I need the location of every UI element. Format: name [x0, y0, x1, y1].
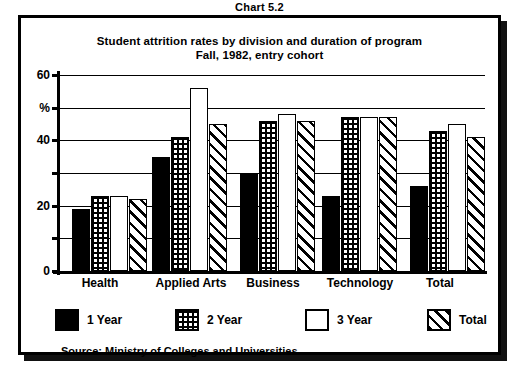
bar-groups [60, 75, 483, 271]
bar-technology-1-year [322, 196, 340, 271]
y-tick-30 [52, 172, 60, 175]
bar-applied-arts-2-year [171, 137, 189, 271]
source-note: Source: Ministry of Colleges and Univers… [61, 345, 298, 357]
chart-title-line1: Student attrition rates by division and … [21, 34, 498, 48]
x-axis-line [53, 271, 487, 274]
chart-title-line2: Fall, 1982, entry cohort [21, 48, 498, 62]
bar-total-3-year [448, 124, 466, 271]
legend-label-3-year: 3 Year [337, 313, 372, 327]
bar-total-1-year [410, 186, 428, 271]
y-tick-20 [52, 205, 60, 208]
chart-figure: Chart 5.2 Student attrition rates by div… [0, 0, 519, 372]
chart-number-caption: Chart 5.2 [0, 1, 519, 13]
bar-applied-arts-1-year [152, 157, 170, 271]
chart-title-block: Student attrition rates by division and … [21, 34, 498, 62]
white-empty-swatch [305, 309, 329, 331]
bar-group-total [410, 75, 485, 271]
y-tick-0 [52, 270, 60, 273]
bar-applied-arts-3-year [190, 88, 208, 271]
legend-label-1-year: 1 Year [87, 313, 122, 327]
legend-item-total: Total [427, 309, 487, 331]
bar-total-total [467, 137, 485, 271]
chart-legend: 1 Year2 Year3 YearTotal [55, 309, 495, 335]
bar-group-business [240, 75, 315, 271]
category-label-technology: Technology [315, 276, 405, 290]
category-label-health: Health [65, 276, 135, 290]
legend-label-total: Total [459, 313, 487, 327]
bar-group-technology [322, 75, 397, 271]
y-tick-50 [52, 107, 60, 110]
y-axis-label-60: 60 [37, 70, 50, 80]
bar-technology-2-year [341, 117, 359, 271]
category-label-business: Business [233, 276, 313, 290]
bar-applied-arts-total [209, 124, 227, 271]
bar-business-total [297, 121, 315, 271]
bar-health-1-year [72, 209, 90, 271]
diagonal-hatch-swatch [427, 309, 451, 331]
y-tick-40 [52, 139, 60, 142]
bar-business-1-year [240, 173, 258, 271]
bar-business-3-year [278, 114, 296, 271]
bar-technology-total [379, 117, 397, 271]
legend-item-2-year: 2 Year [175, 309, 242, 331]
y-axis-label-40: 40 [37, 135, 50, 145]
bar-total-2-year [429, 131, 447, 271]
legend-label-2-year: 2 Year [207, 313, 242, 327]
legend-item-3-year: 3 Year [305, 309, 372, 331]
category-label-total: Total [405, 276, 475, 290]
y-tick-60 [52, 74, 60, 77]
y-axis-unit-label: % [39, 103, 50, 113]
y-axis-label-0: 0 [43, 266, 50, 276]
category-axis-labels: HealthApplied ArtsBusinessTechnologyTota… [57, 276, 487, 294]
bar-technology-3-year [360, 117, 378, 271]
chart-frame: Student attrition rates by division and … [18, 15, 501, 355]
category-label-applied-arts: Applied Arts [143, 276, 239, 290]
plot-area: 0204060% [57, 75, 483, 271]
y-axis-label-20: 20 [37, 201, 50, 211]
grid-hatch-swatch [175, 309, 199, 331]
bar-group-health [72, 75, 147, 271]
solid-black-swatch [55, 309, 79, 331]
legend-item-1-year: 1 Year [55, 309, 122, 331]
bar-group-applied-arts [152, 75, 227, 271]
bar-health-total [129, 199, 147, 271]
bar-health-2-year [91, 196, 109, 271]
bar-business-2-year [259, 121, 277, 271]
y-tick-10 [52, 237, 60, 240]
bar-health-3-year [110, 196, 128, 271]
